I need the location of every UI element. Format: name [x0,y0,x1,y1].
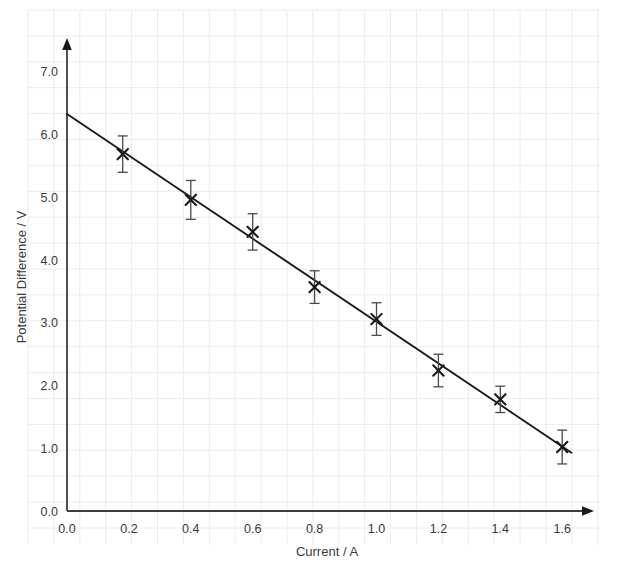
x-tick-label: 0.6 [244,522,261,536]
x-tick-label: 1.6 [554,522,571,536]
x-tick-label: 0.2 [120,522,137,536]
x-tick-label: 0.0 [58,522,75,536]
y-tick-label: 4.0 [41,254,58,268]
y-tick-label: 0.0 [41,505,58,519]
x-tick-label: 1.4 [492,522,509,536]
y-tick-label: 3.0 [41,316,58,330]
x-axis-title: Current / A [296,544,358,559]
y-tick-label: 5.0 [41,191,58,205]
x-tick-labels: 0.00.20.40.60.81.01.21.41.6 [58,522,571,536]
x-tick-label: 0.4 [182,522,199,536]
y-tick-label: 7.0 [41,65,58,79]
chart-figure: 0.01.02.03.04.05.06.07.0 0.00.20.40.60.8… [0,0,628,574]
y-tick-label: 2.0 [41,379,58,393]
y-axis-title: Potential Difference / V [14,210,29,343]
x-tick-label: 1.0 [368,522,385,536]
potential-difference-vs-current-plot: 0.01.02.03.04.05.06.07.0 0.00.20.40.60.8… [0,0,628,574]
y-tick-label: 6.0 [41,128,58,142]
x-tick-label: 1.2 [430,522,447,536]
x-tick-label: 0.8 [306,522,323,536]
y-tick-label: 1.0 [41,442,58,456]
